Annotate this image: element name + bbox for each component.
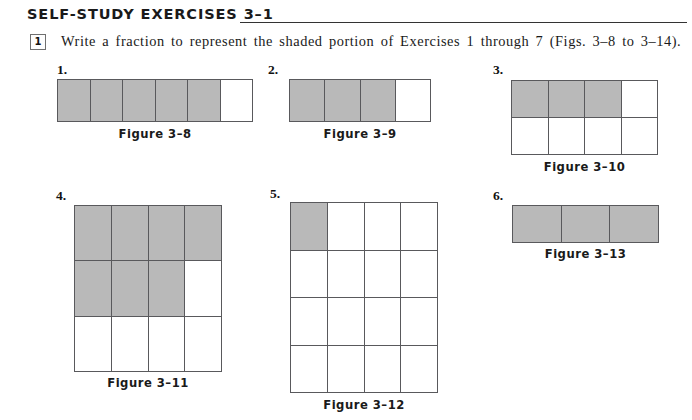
figure-caption-5: Figure 3–12	[290, 398, 438, 412]
figure-cell-empty	[365, 346, 402, 394]
figure-cell-empty	[622, 118, 659, 155]
figure-caption-2: Figure 3–9	[289, 127, 431, 141]
exercise-number-6: 6.	[493, 188, 503, 204]
figure-cell-empty	[75, 317, 112, 372]
figure-cell-empty	[221, 80, 254, 122]
figure-cell-shaded	[291, 203, 328, 251]
figure-cell-empty	[149, 317, 186, 372]
figure-cell-empty	[585, 118, 622, 155]
page-title: SELF-STUDY EXERCISES 3–1	[27, 6, 274, 22]
figure-cell-shaded	[610, 206, 659, 243]
figure-cell-empty	[365, 298, 402, 346]
figure-cell-empty	[549, 118, 586, 155]
figure-cell-empty	[396, 80, 431, 122]
figure-cell-empty	[328, 203, 365, 251]
figure-caption-4: Figure 3–11	[74, 376, 222, 390]
figure-cell-shaded	[585, 81, 622, 118]
exercise-number-5: 5.	[270, 186, 280, 202]
figure-cell-empty	[401, 203, 438, 251]
exercise-number-2: 2.	[268, 62, 278, 78]
figure-cell-shaded	[112, 206, 149, 261]
figure-cell-shaded	[562, 206, 611, 243]
figure-cell-empty	[365, 203, 402, 251]
figure-cell-empty	[291, 251, 328, 299]
figure-grid-1	[57, 79, 253, 122]
figure-cell-shaded	[325, 80, 360, 122]
figure-cell-empty	[401, 251, 438, 299]
instruction-number-badge: 1	[30, 34, 46, 50]
figure-grid-6	[512, 205, 659, 243]
figure-cell-shaded	[361, 80, 396, 122]
figure-cell-shaded	[149, 206, 186, 261]
figure-cell-shaded	[112, 261, 149, 316]
figure-cell-shaded	[58, 80, 91, 122]
figure-cell-empty	[112, 317, 149, 372]
figure-cell-shaded	[549, 81, 586, 118]
figure-cell-empty	[328, 251, 365, 299]
figure-cell-shaded	[188, 80, 221, 122]
figure-cell-shaded	[75, 206, 112, 261]
figure-cell-empty	[622, 81, 659, 118]
figure-cell-shaded	[149, 261, 186, 316]
figure-grid-2	[289, 79, 431, 122]
figure-grid-4	[74, 205, 222, 372]
figure-cell-empty	[328, 346, 365, 394]
figure-cell-shaded	[512, 81, 549, 118]
instruction-text: Write a fraction to represent the shaded…	[61, 33, 661, 50]
figure-cell-shaded	[75, 261, 112, 316]
figure-cell-empty	[512, 118, 549, 155]
figure-caption-6: Figure 3–13	[512, 247, 659, 261]
figure-cell-shaded	[156, 80, 189, 122]
figure-cell-shaded	[513, 206, 562, 243]
figure-cell-empty	[365, 251, 402, 299]
exercise-number-4: 4.	[56, 188, 66, 204]
figure-cell-shaded	[290, 80, 325, 122]
exercise-number-3: 3.	[493, 62, 503, 78]
exercise-number-1: 1.	[57, 62, 67, 78]
figure-cell-empty	[328, 298, 365, 346]
header-rule	[240, 22, 687, 23]
figure-cell-empty	[185, 261, 222, 316]
figure-cell-shaded	[91, 80, 124, 122]
figure-caption-1: Figure 3–8	[57, 127, 253, 141]
figure-cell-empty	[291, 298, 328, 346]
figure-cell-empty	[401, 298, 438, 346]
figure-caption-3: Figure 3–10	[511, 160, 658, 174]
figure-cell-shaded	[123, 80, 156, 122]
figure-cell-empty	[291, 346, 328, 394]
figure-cell-shaded	[185, 206, 222, 261]
instruction-row: 1 Write a fraction to represent the shad…	[30, 33, 670, 55]
figure-grid-3	[511, 80, 658, 155]
figure-grid-5	[290, 202, 438, 393]
figure-cell-empty	[185, 317, 222, 372]
section-header: SELF-STUDY EXERCISES 3–1	[27, 6, 687, 30]
figure-cell-empty	[401, 346, 438, 394]
